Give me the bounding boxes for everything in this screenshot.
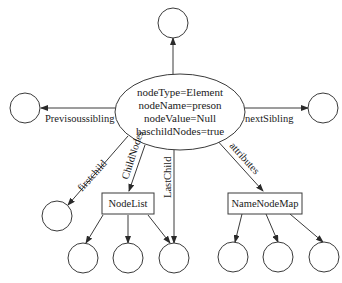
center-line-has-child-nodes: haschildNodes=true xyxy=(136,125,224,137)
namenodemap-child-circle-3 xyxy=(309,242,339,272)
nodelist-child-circle-2 xyxy=(113,243,143,273)
next-sibling-label: nextSibling xyxy=(245,113,294,124)
next-sibling-node-circle xyxy=(308,93,338,123)
last-child-node-circle xyxy=(159,243,189,273)
edge-namenodemap-child-2 xyxy=(266,214,278,242)
first-child-label: firstchild xyxy=(75,157,109,193)
dom-node-diagram: nodeType=Element nodeName=preson nodeVal… xyxy=(0,0,342,283)
first-child-node-circle xyxy=(42,201,72,231)
parent-node-circle xyxy=(158,8,188,38)
edge-namenodemap-child-3 xyxy=(290,214,323,242)
edge-namenodemap-child-1 xyxy=(235,214,242,242)
last-child-label: LastChild xyxy=(162,156,173,198)
nodelist-label: NodeList xyxy=(108,198,147,209)
center-line-node-type: nodeType=Element xyxy=(137,86,223,98)
namenodemap-child-circle-2 xyxy=(263,242,293,272)
center-line-node-name: nodeName=preson xyxy=(138,99,222,111)
previous-sibling-label: Previsoussibling xyxy=(45,113,115,124)
namenodemap-child-circle-1 xyxy=(218,242,248,272)
nodelist-child-circle-1 xyxy=(68,243,98,273)
namenodemap-label: NameNodeMap xyxy=(231,198,298,209)
edge-nodelist-child-1 xyxy=(86,215,103,243)
previous-sibling-node-circle xyxy=(10,93,40,123)
center-line-node-value: nodeValue=Null xyxy=(144,112,216,124)
edge-nodelist-child-3 xyxy=(148,215,170,243)
